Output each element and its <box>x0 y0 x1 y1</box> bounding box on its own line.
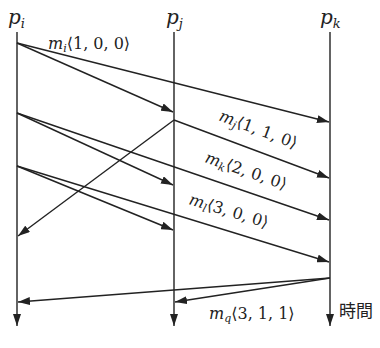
process-label-pi: pi <box>8 5 25 31</box>
message-ml-to-pj <box>17 166 173 230</box>
message-mi-to-pj <box>17 43 173 112</box>
process-label-pj: pj <box>166 5 183 31</box>
message-label-mj: mj⟨1, 1, 0⟩ <box>216 106 300 154</box>
message-label-mk: mk⟨2, 0, 0⟩ <box>202 148 289 196</box>
space-time-diagram: pi pj pk mi⟨1, 0, 0⟩ mj⟨1, 1, 0⟩ mk⟨2, 0… <box>0 0 380 348</box>
message-label-mi: mi⟨1, 0, 0⟩ <box>48 34 130 55</box>
message-label-mq: mq⟨3, 1, 1⟩ <box>209 304 295 325</box>
process-label-pk: pk <box>320 5 341 31</box>
message-mq-to-pj <box>175 278 330 302</box>
message-mj-to-pi <box>18 120 174 236</box>
time-axis-label: 時間 <box>339 301 373 321</box>
message-mk-to-pj <box>17 113 173 185</box>
